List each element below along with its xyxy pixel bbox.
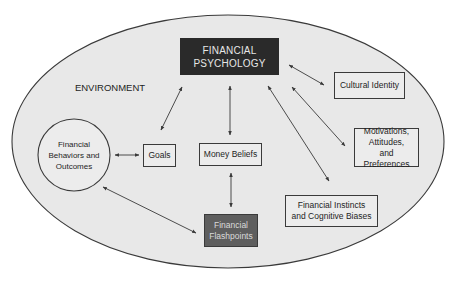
goals-node: Goals — [143, 144, 176, 167]
environment-label: ENVIRONMENT — [68, 80, 152, 94]
money-beliefs-node: Money Beliefs — [199, 143, 262, 166]
flashpoints-node: Financial Flashpoints — [204, 214, 258, 247]
instincts-node: Financial Instincts and Cognitive Biases — [285, 195, 378, 227]
cultural-identity-node: Cultural Identity — [334, 72, 405, 99]
motivations-node: Motivations, Attitudes, and Preferences — [354, 128, 419, 167]
behaviors-node: Financial Behaviors and Outcomes — [42, 136, 106, 174]
financial-psychology-node: FINANCIAL PSYCHOLOGY — [180, 38, 279, 75]
